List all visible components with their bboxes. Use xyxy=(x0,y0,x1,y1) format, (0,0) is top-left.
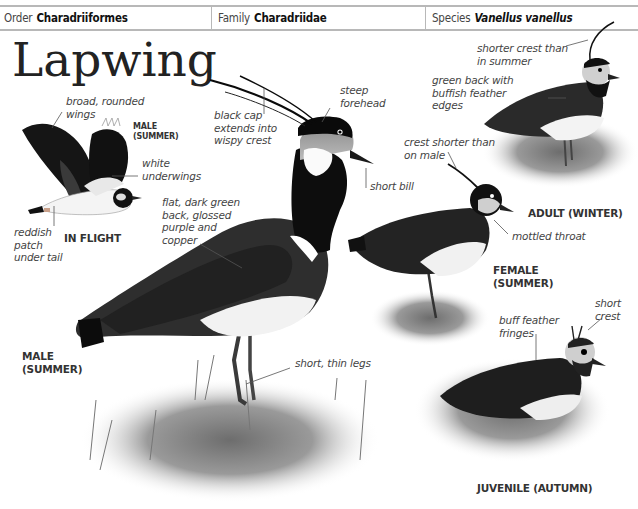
juvenile-bird-illustration xyxy=(414,326,610,462)
label-broad-rounded-wings: broad, rounded wings xyxy=(66,95,144,120)
label-short-crest: short crest xyxy=(595,297,621,322)
label-green-back-buffish: green back with buffish feather edges xyxy=(432,74,513,112)
label-short-thin-legs: short, thin legs xyxy=(295,357,371,370)
label-crest-shorter-than-male: crest shorter than on male xyxy=(404,136,495,161)
label-steep-forehead: steep forehead xyxy=(340,84,386,109)
label-reddish-patch: reddish patch under tail xyxy=(14,226,62,264)
caption-in-flight: IN FLIGHT xyxy=(64,232,121,245)
caption-female-summer: FEMALE (SUMMER) xyxy=(493,264,553,289)
label-flat-dark-green-back: flat, dark green back, glossed purple an… xyxy=(162,196,240,246)
in-flight-bird-illustration xyxy=(22,118,142,215)
caption-juvenile-autumn: JUVENILE (AUTUMN) xyxy=(477,482,592,495)
label-shorter-crest: shorter crest than in summer xyxy=(477,42,568,67)
caption-in-flight-male-summer: MALE (SUMMER) xyxy=(133,122,179,142)
label-mottled-throat: mottled throat xyxy=(512,230,586,243)
label-black-cap: black cap extends into wispy crest xyxy=(214,109,277,147)
bird-illustrations xyxy=(0,0,638,509)
label-white-underwings: white underwings xyxy=(142,157,201,182)
label-short-bill: short bill xyxy=(370,180,414,193)
caption-male-summer: MALE (SUMMER) xyxy=(22,350,82,375)
caption-adult-winter: ADULT (WINTER) xyxy=(528,207,623,220)
label-buff-feather-fringes: buff feather fringes xyxy=(499,314,559,339)
